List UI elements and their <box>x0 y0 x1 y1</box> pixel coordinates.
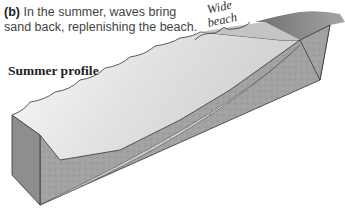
beach-block-diagram <box>0 0 345 219</box>
summer-profile-label: Summer profile <box>8 63 99 79</box>
